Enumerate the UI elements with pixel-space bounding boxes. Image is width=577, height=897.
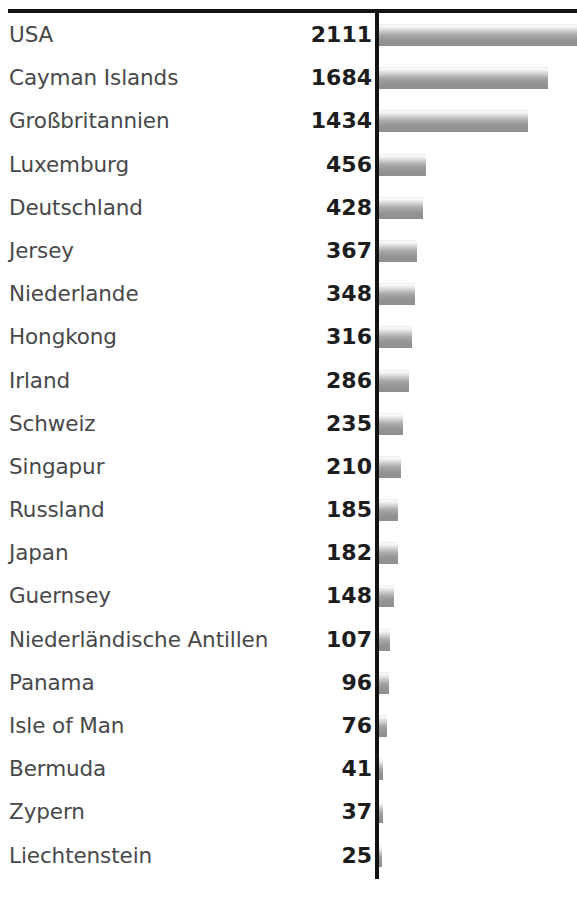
bar-cell — [379, 661, 577, 704]
country-label: Luxemburg — [9, 143, 129, 186]
bar-cell — [379, 574, 577, 617]
country-label: Deutschland — [9, 186, 143, 229]
count-value: 76 — [341, 704, 372, 747]
table-row: Bermuda41 — [0, 747, 577, 790]
table-row: Deutschland428 — [0, 186, 577, 229]
value-bar — [379, 672, 389, 694]
bar-cell — [379, 143, 577, 186]
country-label: Niederlande — [9, 272, 139, 315]
bar-cell — [379, 488, 577, 531]
table-row: Niederländische Antillen107 — [0, 618, 577, 661]
country-label: USA — [9, 13, 53, 56]
table-row: Zypern37 — [0, 790, 577, 833]
value-bar — [379, 542, 398, 564]
bar-cell — [379, 834, 577, 877]
bar-cell — [379, 445, 577, 488]
value-bar — [379, 154, 426, 176]
value-bar — [379, 326, 412, 348]
country-label: Bermuda — [9, 747, 106, 790]
bar-cell — [379, 56, 577, 99]
count-value: 41 — [341, 747, 372, 790]
bar-cell — [379, 790, 577, 833]
value-bar — [379, 499, 398, 521]
count-value: 2111 — [311, 13, 372, 56]
count-value: 348 — [326, 272, 372, 315]
table-row: Hongkong316 — [0, 315, 577, 358]
bar-cell — [379, 704, 577, 747]
count-value: 1684 — [311, 56, 372, 99]
country-label: Schweiz — [9, 402, 95, 445]
value-bar — [379, 585, 394, 607]
value-bar — [379, 456, 401, 478]
count-value: 286 — [326, 359, 372, 402]
country-label: Großbritannien — [9, 99, 169, 142]
table-row: Luxemburg456 — [0, 143, 577, 186]
bar-cell — [379, 402, 577, 445]
country-label: Zypern — [9, 790, 85, 833]
table-row: Cayman Islands1684 — [0, 56, 577, 99]
country-label: Singapur — [9, 445, 104, 488]
value-bar — [379, 110, 528, 132]
country-label: Irland — [9, 359, 70, 402]
table-row: Niederlande348 — [0, 272, 577, 315]
table-row: Guernsey148 — [0, 574, 577, 617]
bar-cell — [379, 359, 577, 402]
value-bar — [379, 24, 577, 46]
value-bar — [379, 758, 383, 780]
count-value: 96 — [341, 661, 372, 704]
table-row: Isle of Man76 — [0, 704, 577, 747]
value-bar — [379, 67, 548, 89]
bar-cell — [379, 315, 577, 358]
bar-cell — [379, 99, 577, 142]
count-value: 1434 — [311, 99, 372, 142]
table-row: Liechtenstein25 — [0, 834, 577, 877]
count-value: 428 — [326, 186, 372, 229]
count-value: 148 — [326, 574, 372, 617]
table-row: Singapur210 — [0, 445, 577, 488]
count-value: 456 — [326, 143, 372, 186]
table-row: Jersey367 — [0, 229, 577, 272]
table-row: Großbritannien1434 — [0, 99, 577, 142]
value-bar — [379, 283, 415, 305]
country-label: Isle of Man — [9, 704, 124, 747]
country-label: Hongkong — [9, 315, 117, 358]
table-row: USA2111 — [0, 13, 577, 56]
table-row: Irland286 — [0, 359, 577, 402]
chart-rows-container: USA2111Cayman Islands1684Großbritannien1… — [0, 13, 577, 877]
value-bar — [379, 197, 423, 219]
count-value: 182 — [326, 531, 372, 574]
count-value: 210 — [326, 445, 372, 488]
country-label: Niederländische Antillen — [9, 618, 268, 661]
country-label: Panama — [9, 661, 95, 704]
table-row: Russland185 — [0, 488, 577, 531]
count-value: 37 — [341, 790, 372, 833]
table-row: Schweiz235 — [0, 402, 577, 445]
value-bar — [379, 845, 382, 867]
count-value: 316 — [326, 315, 372, 358]
bar-cell — [379, 747, 577, 790]
bar-cell — [379, 531, 577, 574]
bar-cell — [379, 186, 577, 229]
count-value: 185 — [326, 488, 372, 531]
country-label: Russland — [9, 488, 105, 531]
country-label: Liechtenstein — [9, 834, 152, 877]
country-label: Guernsey — [9, 574, 111, 617]
value-bar — [379, 240, 417, 262]
value-bar — [379, 801, 383, 823]
table-row: Japan182 — [0, 531, 577, 574]
value-bar — [379, 715, 387, 737]
bar-cell — [379, 618, 577, 661]
country-label: Japan — [9, 531, 68, 574]
count-value: 25 — [341, 834, 372, 877]
table-row: Panama96 — [0, 661, 577, 704]
country-label: Cayman Islands — [9, 56, 178, 99]
bar-cell — [379, 229, 577, 272]
count-value: 107 — [326, 618, 372, 661]
count-value: 235 — [326, 402, 372, 445]
bar-chart-figure: USA2111Cayman Islands1684Großbritannien1… — [0, 0, 577, 897]
value-bar — [379, 370, 409, 392]
value-bar — [379, 413, 403, 435]
bar-cell — [379, 13, 577, 56]
count-value: 367 — [326, 229, 372, 272]
bar-cell — [379, 272, 577, 315]
